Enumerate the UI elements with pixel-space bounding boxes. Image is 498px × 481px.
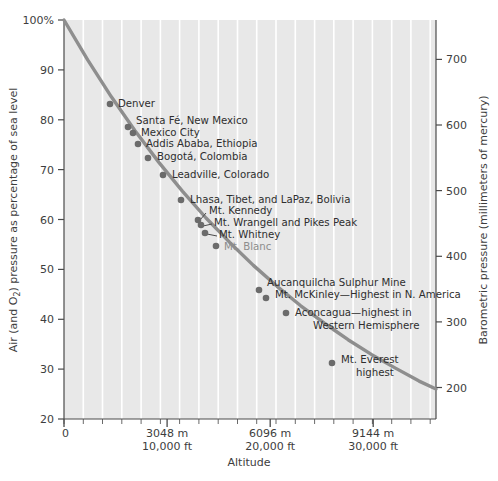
data-point-label: Mt. Wrangell and Pikes Peak [214, 217, 357, 228]
x-tick-label-meters: 0 [62, 427, 69, 440]
data-point-label: Denver [118, 98, 156, 109]
data-point-marker [283, 310, 290, 317]
data-point-label: Aconcagua—highest in [295, 307, 412, 318]
x-tick-label-meters: 6096 m [249, 427, 291, 440]
data-point-label: Leadville, Colorado [172, 169, 269, 180]
y-tick-label-left: 30 [40, 363, 54, 376]
data-point-label: Mt. Whitney [219, 229, 280, 240]
y-tick-label-right: 700 [446, 53, 467, 66]
data-point-label: Santa Fé, New Mexico [136, 115, 248, 126]
y-tick-label-right: 400 [446, 250, 467, 263]
data-point-label: Aucanquilcha Sulphur Mine [267, 277, 406, 288]
altitude-pressure-chart: DenverSanta Fé, New MexicoMexico CityAdd… [0, 0, 498, 481]
y-tick-label-left: 80 [40, 114, 54, 127]
x-tick-label-meters: 9144 m [352, 427, 394, 440]
y-tick-label-right: 200 [446, 382, 467, 395]
data-point-marker [145, 155, 152, 162]
y-axis-left-title: Air (and O2) pressure as percentage of s… [7, 88, 22, 353]
y-tick-label-left: 20 [40, 413, 54, 426]
data-point-label: Mt. McKinley—Highest in N. America [275, 289, 461, 300]
y-tick-label-left: 100% [23, 14, 54, 27]
y-axis-right-title: Barometric pressure (millimeters of merc… [477, 96, 490, 345]
data-point-marker [263, 295, 270, 302]
data-point-label: Mt. Kennedy [209, 205, 272, 216]
x-tick-label-meters: 3048 m [146, 427, 188, 440]
x-axis-title: Altitude [228, 456, 271, 469]
data-point-marker [130, 130, 137, 137]
data-point-marker [198, 222, 205, 229]
y-tick-label-right: 600 [446, 119, 467, 132]
data-point-label: Lhasa, Tibet, and LaPaz, Bolivia [190, 194, 350, 205]
x-tick-label-feet: 20,000 ft [245, 440, 296, 453]
data-point-label: Western Hemisphere [313, 320, 419, 331]
data-point-marker [107, 101, 114, 108]
data-point-label: Mt. Blanc [224, 241, 271, 252]
data-point-marker [135, 141, 142, 148]
y-tick-label-left: 40 [40, 313, 54, 326]
y-tick-label-left: 50 [40, 263, 54, 276]
x-tick-label-feet: 10,000 ft [142, 440, 193, 453]
y-tick-label-right: 300 [446, 316, 467, 329]
data-point-marker [256, 287, 263, 294]
data-point-label: Addis Ababa, Ethiopia [146, 138, 257, 149]
data-point-marker [202, 230, 209, 237]
data-point-label: highest [356, 367, 394, 378]
data-point-marker [213, 243, 220, 250]
data-point-marker [160, 172, 167, 179]
data-point-label: Mexico City [141, 127, 200, 138]
data-point-label: Mt. Everest [341, 354, 399, 365]
data-point-marker [125, 124, 132, 131]
chart-svg: DenverSanta Fé, New MexicoMexico CityAdd… [0, 0, 498, 481]
y-tick-label-left: 90 [40, 64, 54, 77]
x-tick-label-feet: 30,000 ft [348, 440, 399, 453]
data-point-marker [329, 360, 336, 367]
y-tick-label-left: 60 [40, 214, 54, 227]
data-point-label: Bogotá, Colombia [157, 151, 248, 162]
y-tick-label-right: 500 [446, 185, 467, 198]
data-point-marker [178, 197, 185, 204]
y-tick-label-left: 70 [40, 164, 54, 177]
